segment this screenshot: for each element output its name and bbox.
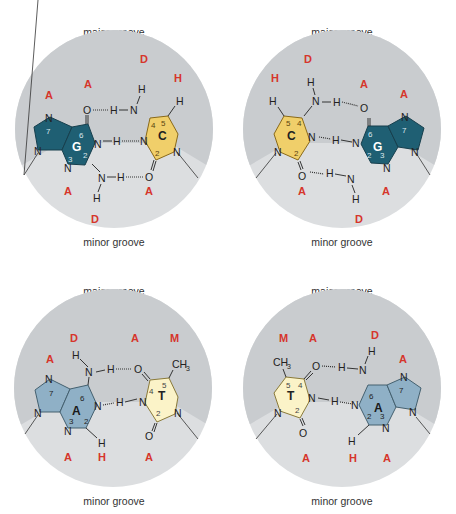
svg-text:A: A <box>72 404 81 418</box>
svg-text:N: N <box>359 364 367 376</box>
svg-text:H: H <box>352 193 360 205</box>
svg-text:H: H <box>138 83 146 95</box>
svg-text:4: 4 <box>297 119 302 128</box>
svg-text:4: 4 <box>151 121 156 130</box>
svg-text:3: 3 <box>287 363 291 370</box>
panel-gc-pair: major groove minor groove G 7 6 3 2 N N … <box>0 0 228 257</box>
svg-text:N: N <box>34 145 42 157</box>
svg-text:N: N <box>173 146 181 158</box>
gc-pair-diagram: G 7 6 3 2 N N N N O N H H N H H H C 4 5 … <box>0 0 228 257</box>
svg-text:3: 3 <box>186 365 190 372</box>
svg-text:H: H <box>72 349 80 361</box>
svg-text:7: 7 <box>46 127 51 136</box>
svg-text:N: N <box>274 407 282 419</box>
panel-cg-pair: major groove minor groove C 5 4 2 N N H … <box>228 0 456 257</box>
svg-text:M: M <box>279 332 288 344</box>
svg-text:N: N <box>308 131 316 143</box>
svg-text:A: A <box>399 353 407 365</box>
svg-text:T: T <box>287 389 295 403</box>
svg-text:A: A <box>131 332 139 344</box>
svg-text:H: H <box>368 345 376 357</box>
svg-text:H: H <box>331 395 339 407</box>
svg-text:A: A <box>64 451 72 463</box>
svg-text:A: A <box>309 332 317 344</box>
svg-text:A: A <box>145 451 153 463</box>
at-pair-diagram: A 7 6 3 2 N N N N N H H O H H T 4 5 2 N … <box>0 257 228 514</box>
svg-text:H: H <box>110 104 118 116</box>
svg-text:N: N <box>34 407 42 419</box>
svg-text:O: O <box>134 363 142 375</box>
svg-text:N: N <box>85 366 93 378</box>
svg-text:N: N <box>45 373 53 385</box>
svg-text:D: D <box>371 329 379 341</box>
svg-text:D: D <box>304 53 312 65</box>
panel-at-pair: major groove minor groove A 7 6 3 2 N N … <box>0 257 228 514</box>
svg-text:2: 2 <box>83 151 88 160</box>
svg-text:O: O <box>145 430 153 442</box>
svg-text:O: O <box>298 170 306 182</box>
svg-text:H: H <box>349 452 357 464</box>
svg-text:N: N <box>45 112 53 124</box>
svg-text:A: A <box>360 78 368 90</box>
svg-text:2: 2 <box>367 151 372 160</box>
svg-text:N: N <box>139 396 147 408</box>
svg-text:2: 2 <box>84 417 89 426</box>
svg-text:4: 4 <box>298 381 303 390</box>
svg-text:D: D <box>70 332 78 344</box>
svg-text:5: 5 <box>161 119 166 128</box>
svg-text:H: H <box>332 134 340 146</box>
major-groove-code: A <box>84 78 92 90</box>
svg-text:H: H <box>107 363 115 375</box>
svg-text:A: A <box>302 452 310 464</box>
svg-text:N: N <box>400 371 408 383</box>
svg-text:H: H <box>116 396 124 408</box>
svg-text:2: 2 <box>367 412 372 421</box>
svg-text:N: N <box>130 104 138 116</box>
svg-text:CH: CH <box>273 356 288 368</box>
svg-text:N: N <box>274 146 282 158</box>
svg-text:2: 2 <box>156 409 161 418</box>
svg-text:O: O <box>145 171 153 183</box>
svg-text:C: C <box>287 129 296 143</box>
svg-text:N: N <box>174 407 182 419</box>
svg-text:N: N <box>94 400 102 412</box>
svg-text:A: A <box>400 88 408 100</box>
svg-text:N: N <box>411 146 419 158</box>
svg-text:H: H <box>269 95 277 107</box>
panel-ta-pair: major groove minor groove T 5 4 2 N N CH… <box>228 257 456 514</box>
cg-pair-diagram: C 5 4 2 N N H O N H H O H H N H G 6 7 2 … <box>228 0 456 257</box>
svg-text:H: H <box>271 72 279 84</box>
ta-pair-diagram: T 5 4 2 N N CH 3 O O H N H H A 6 7 2 3 N… <box>228 257 456 514</box>
svg-text:7: 7 <box>49 389 54 398</box>
svg-text:O: O <box>360 102 368 114</box>
svg-text:7: 7 <box>402 126 407 135</box>
svg-text:A: A <box>383 452 391 464</box>
svg-text:N: N <box>308 392 316 404</box>
svg-text:H: H <box>117 171 125 183</box>
svg-text:6: 6 <box>80 394 85 403</box>
svg-text:G: G <box>72 140 81 154</box>
svg-text:N: N <box>409 406 417 418</box>
svg-text:D: D <box>355 213 363 225</box>
svg-text:C: C <box>158 129 167 143</box>
svg-text:O: O <box>83 104 91 116</box>
svg-text:6: 6 <box>368 130 373 139</box>
svg-text:O: O <box>312 360 320 372</box>
svg-text:N: N <box>383 162 391 174</box>
svg-text:CH: CH <box>172 358 187 370</box>
svg-text:A: A <box>46 353 54 365</box>
svg-text:N: N <box>347 173 355 185</box>
svg-text:6: 6 <box>79 131 84 140</box>
svg-text:H: H <box>348 435 356 447</box>
svg-text:5: 5 <box>286 119 291 128</box>
svg-text:A: A <box>382 185 390 197</box>
svg-text:3: 3 <box>380 151 385 160</box>
svg-text:N: N <box>64 162 72 174</box>
svg-text:H: H <box>113 135 121 147</box>
svg-text:H: H <box>176 95 184 107</box>
svg-text:N: N <box>401 111 409 123</box>
svg-text:O: O <box>299 427 307 439</box>
svg-text:N: N <box>94 138 102 150</box>
major-groove-code: D <box>140 53 148 65</box>
minor-groove-code: A <box>145 185 153 197</box>
